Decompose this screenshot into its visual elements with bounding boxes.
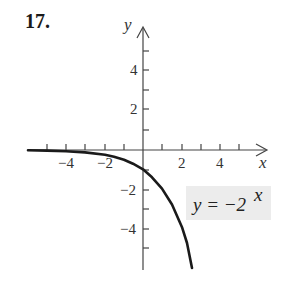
y-tick-label: 4 [130, 62, 138, 78]
x-tick-label: −2 [97, 155, 113, 171]
graph: −4 −2 2 4 4 2 −2 −4 x y y = −2 x [0, 0, 290, 290]
equation-exponent: x [253, 184, 263, 205]
y-tick-label: −4 [120, 221, 136, 237]
x-axis-label: x [258, 153, 267, 172]
x-tick-label: 2 [178, 155, 186, 171]
svg-text:y = −2: y = −2 [191, 194, 247, 215]
y-tick-label: 2 [130, 101, 138, 117]
equation-text: y = −2 [191, 194, 247, 215]
y-tick-label: −2 [120, 182, 136, 198]
x-tick-label: 4 [216, 155, 224, 171]
y-axis [137, 27, 149, 270]
y-axis-label: y [122, 15, 132, 34]
equation-label: y = −2 x [186, 184, 271, 220]
x-tick-label: −4 [58, 155, 74, 171]
